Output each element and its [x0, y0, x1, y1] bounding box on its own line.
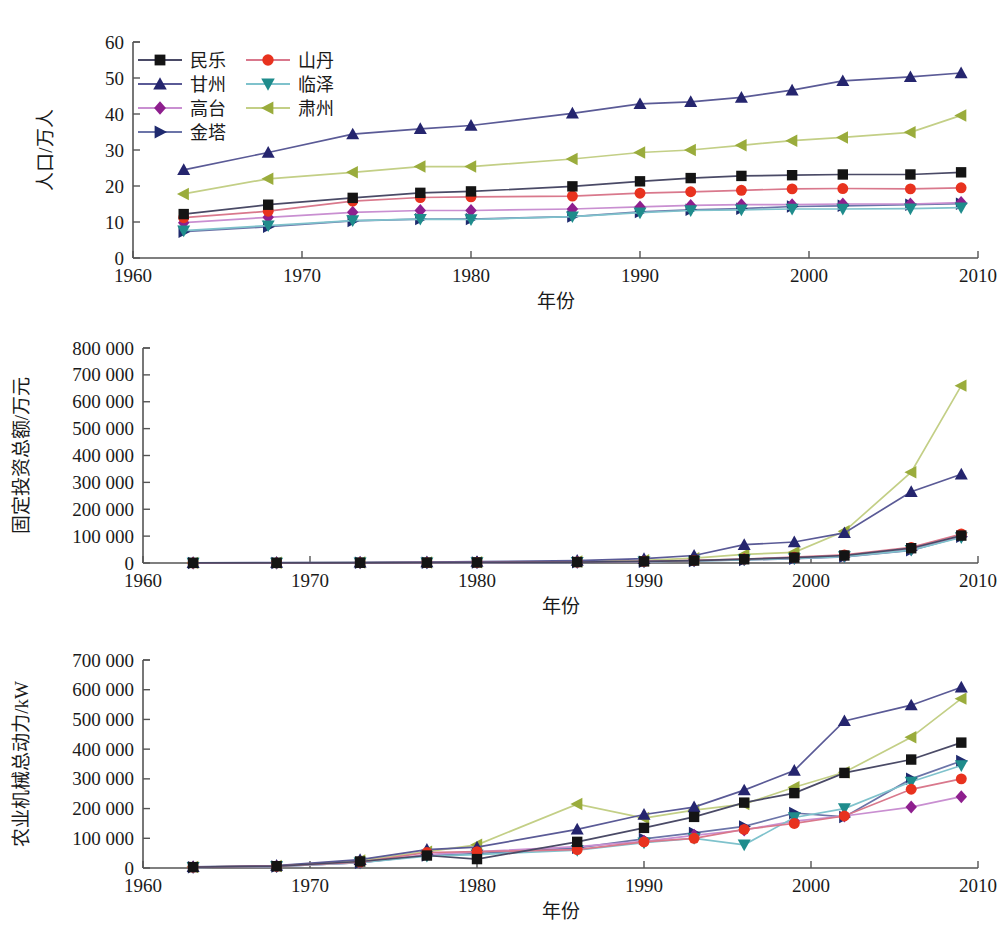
svg-text:人口/万人: 人口/万人: [35, 109, 56, 190]
data-point: [472, 557, 482, 567]
y-tick-label: 300 000: [72, 768, 134, 789]
data-point: [836, 131, 848, 143]
data-point: [905, 699, 918, 711]
data-point: [639, 556, 649, 566]
x-tick-label: 2010: [959, 875, 997, 896]
legend-marker-diamond-icon: [154, 101, 166, 115]
x-tick-label: 1970: [283, 265, 321, 286]
y-tick-label: 400 000: [72, 445, 134, 466]
legend-label: 肃州: [298, 99, 334, 119]
fixed-investment-chart-svg: 0100 000200 000300 000400 000500 000600 …: [0, 310, 1004, 620]
x-tick-label: 1990: [625, 875, 663, 896]
y-axis-title: 固定投资总额/万元: [11, 377, 32, 534]
svg-text:固定投资总额/万元: 固定投资总额/万元: [11, 377, 32, 534]
data-point: [466, 186, 476, 196]
population-chart-svg: 0102030405060196019701980199020002010年份人…: [0, 0, 1004, 310]
legend-marker-square-icon: [155, 55, 166, 66]
machinery-chart-svg: 0100 000200 000300 000400 000500 000600 …: [0, 620, 1004, 941]
legend-item-suzhou[interactable]: 肃州: [246, 99, 334, 119]
y-tick-label: 20: [105, 176, 124, 197]
data-point: [739, 824, 750, 835]
data-point: [956, 530, 966, 540]
series-ganzhou: [187, 468, 968, 568]
data-point: [738, 840, 751, 852]
data-point: [346, 166, 358, 178]
y-tick-label: 200 000: [72, 499, 134, 520]
data-point: [956, 182, 967, 193]
data-point: [263, 200, 273, 210]
data-point: [735, 139, 747, 151]
data-point: [955, 66, 968, 78]
x-tick-label: 1960: [114, 265, 152, 286]
legend-item-shandan[interactable]: 山丹: [246, 51, 334, 71]
data-point: [904, 126, 916, 138]
x-tick-label: 2000: [792, 875, 830, 896]
data-point: [689, 812, 699, 822]
y-tick-label: 300 000: [72, 472, 134, 493]
legend-marker-triangle-left-icon: [261, 102, 273, 115]
data-point: [904, 731, 916, 743]
y-tick-label: 100 000: [72, 526, 134, 547]
data-point: [639, 836, 650, 847]
data-point: [567, 181, 577, 191]
data-point: [955, 468, 968, 480]
x-tick-label: 1960: [124, 570, 162, 591]
data-point: [956, 773, 967, 784]
y-tick-label: 50: [105, 68, 124, 89]
data-point: [689, 555, 699, 565]
data-point: [954, 109, 966, 121]
data-point: [739, 554, 749, 564]
y-tick-label: 600 000: [72, 679, 134, 700]
data-point: [736, 171, 746, 181]
data-point: [738, 784, 751, 796]
x-axis-title: 年份: [537, 291, 575, 310]
data-point: [785, 134, 797, 146]
y-tick-label: 700 000: [72, 364, 134, 385]
legend: 民乐山丹甘州临泽高台肃州金塔: [138, 51, 334, 143]
data-point: [685, 186, 696, 197]
legend-item-gaotai[interactable]: 高台: [138, 99, 226, 119]
data-point: [905, 183, 916, 194]
y-tick-label: 200 000: [72, 798, 134, 819]
y-tick-label: 400 000: [72, 739, 134, 760]
y-tick-label: 60: [105, 32, 124, 53]
data-point: [905, 169, 915, 179]
data-point: [789, 788, 799, 798]
data-point: [956, 737, 966, 747]
x-tick-label: 2000: [792, 570, 830, 591]
data-point: [639, 823, 649, 833]
y-tick-label: 700 000: [72, 650, 134, 671]
chart-panel-fixed-investment: 0100 000200 000300 000400 000500 000600 …: [0, 310, 1004, 620]
y-tick-label: 500 000: [72, 709, 134, 730]
data-point: [789, 818, 800, 829]
data-point: [271, 558, 281, 568]
x-tick-label: 2010: [959, 265, 997, 286]
legend-item-ganzhou[interactable]: 甘州: [138, 75, 226, 95]
y-tick-label: 500 000: [72, 418, 134, 439]
data-point: [839, 550, 849, 560]
legend-marker-circle-icon: [262, 54, 273, 65]
legend-label: 山丹: [298, 51, 334, 71]
legend-item-jinta[interactable]: 金塔: [138, 123, 226, 143]
data-point: [271, 861, 281, 871]
data-point: [839, 811, 850, 822]
data-point: [956, 790, 967, 803]
data-point: [787, 170, 797, 180]
data-point: [188, 862, 198, 872]
legend-item-minle[interactable]: 民乐: [138, 51, 226, 71]
series-group: [177, 66, 968, 238]
data-point: [955, 681, 968, 693]
x-axis-title: 年份: [542, 596, 580, 617]
x-tick-label: 1990: [625, 570, 663, 591]
data-point: [261, 173, 273, 185]
data-point: [422, 557, 432, 567]
data-point: [348, 193, 358, 203]
data-point: [635, 176, 645, 186]
data-point: [906, 754, 916, 764]
legend-label: 临泽: [298, 75, 334, 95]
data-point: [422, 850, 432, 860]
legend-item-linze[interactable]: 临泽: [246, 75, 334, 95]
data-point: [839, 768, 849, 778]
data-point: [355, 558, 365, 568]
data-point: [188, 558, 198, 568]
